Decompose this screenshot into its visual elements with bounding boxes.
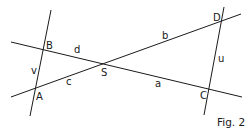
segment-label-c: c [66, 77, 72, 87]
point-label-a: A [36, 92, 43, 102]
point-label-b: B [46, 41, 53, 51]
segment-label-v: v [31, 66, 37, 76]
segment-label-a: a [155, 79, 161, 89]
point-label-d: D [213, 13, 221, 23]
point-label-s: S [101, 68, 107, 78]
point-label-c: C [200, 91, 207, 101]
line-ad [11, 14, 241, 97]
segment-label-u: u [218, 54, 224, 64]
segment-label-b: b [162, 31, 168, 41]
figure-canvas: B A S D C d v c b u a Fig. 2 [0, 0, 252, 133]
figure-caption: Fig. 2 [217, 117, 245, 128]
segment-label-d: d [74, 45, 80, 55]
